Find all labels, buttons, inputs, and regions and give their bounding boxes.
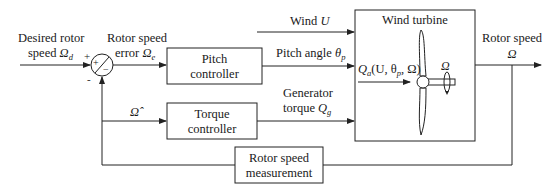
svg-text:Rotor speed: Rotor speed bbox=[107, 31, 168, 45]
svg-text:Rotor speed: Rotor speed bbox=[249, 151, 310, 165]
pitch-angle-signal: Pitch angle θp bbox=[262, 46, 354, 66]
svg-text:Desired rotor: Desired rotor bbox=[18, 31, 85, 45]
svg-text:Torque: Torque bbox=[194, 107, 230, 121]
rotor-speed-measurement-block: Rotor speed measurement bbox=[235, 147, 323, 183]
svg-text:+: + bbox=[93, 57, 99, 68]
generator-torque-signal: Generator torque Qg bbox=[257, 86, 354, 121]
desired-speed-label: Desired rotor speed Ωd bbox=[18, 31, 85, 62]
svg-text:Ω: Ω bbox=[441, 59, 450, 73]
svg-text:Pitch angle θp: Pitch angle θp bbox=[276, 46, 345, 62]
svg-text:error Ωe: error Ωe bbox=[115, 46, 155, 62]
torque-controller-block: Torque controller bbox=[167, 103, 257, 139]
svg-text:controller: controller bbox=[188, 122, 237, 136]
svg-text:speed Ωd: speed Ωd bbox=[28, 46, 74, 62]
svg-text:Wind U: Wind U bbox=[290, 14, 330, 28]
wind-turbine-block: Wind turbine Qa(U, θp, Ω) Ω bbox=[355, 10, 475, 141]
svg-text:torque Qg: torque Qg bbox=[283, 101, 331, 117]
pitch-controller-block: Pitch controller bbox=[167, 48, 262, 84]
svg-text:Wind turbine: Wind turbine bbox=[382, 13, 448, 27]
minus-sign: - bbox=[87, 73, 91, 85]
svg-text:Rotor speed: Rotor speed bbox=[482, 31, 543, 45]
wind-signal: Wind U bbox=[257, 14, 354, 32]
wind-turbine-control-block-diagram: Desired rotor speed Ωd + − + - Rotor spe… bbox=[0, 0, 555, 193]
summing-junction: + − + - bbox=[84, 50, 113, 85]
estimated-speed-label: Ω̂ bbox=[130, 105, 144, 119]
svg-text:measurement: measurement bbox=[246, 166, 313, 180]
error-label: Rotor speed error Ωe bbox=[107, 31, 168, 62]
svg-text:controller: controller bbox=[190, 67, 239, 81]
svg-text:−: − bbox=[103, 64, 109, 75]
svg-text:Pitch: Pitch bbox=[202, 52, 228, 66]
svg-text:Generator: Generator bbox=[283, 86, 334, 100]
svg-text:Ω: Ω bbox=[507, 47, 516, 61]
plus-sign: + bbox=[84, 50, 90, 62]
output-rotor-speed: Rotor speed Ω bbox=[475, 31, 543, 65]
